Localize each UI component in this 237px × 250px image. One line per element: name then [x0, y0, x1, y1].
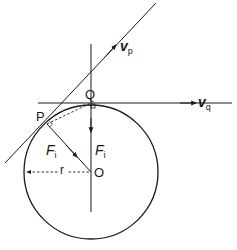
point-q-label: Q [85, 87, 95, 102]
chord-pq-dashed [47, 103, 91, 124]
fi-p-label: Fi [46, 142, 57, 160]
fi-p-arrow-icon [66, 145, 77, 157]
vq-label: vq [198, 94, 211, 112]
point-p-label: P [36, 109, 45, 124]
right-angle-p-icon [50, 121, 53, 126]
vp-arrow-icon [104, 45, 116, 58]
vp-label: vp [120, 38, 133, 56]
radius-label: r [60, 163, 64, 177]
tangent-line-p [5, 3, 156, 163]
point-o-label: O [94, 165, 104, 180]
fi-q-label: Fi [95, 142, 106, 160]
circular-motion-diagram: Q P O r vp vq Fi Fi [0, 0, 237, 250]
